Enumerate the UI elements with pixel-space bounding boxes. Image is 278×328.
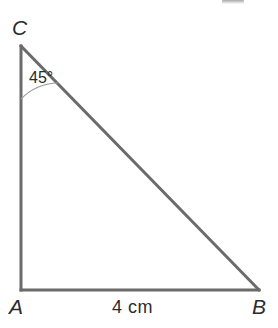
vertex-label-a: A <box>9 296 23 317</box>
side-measure-label-ab: 4 cm <box>112 298 153 316</box>
angle-measure-label-c: 45° <box>29 70 53 86</box>
cropped-text-fragment-artifact <box>222 0 244 4</box>
triangle-figure <box>0 0 278 328</box>
vertex-label-b: B <box>252 296 266 317</box>
geometry-diagram: C A B 45° 4 cm <box>0 0 278 328</box>
vertex-label-c: C <box>12 17 27 38</box>
